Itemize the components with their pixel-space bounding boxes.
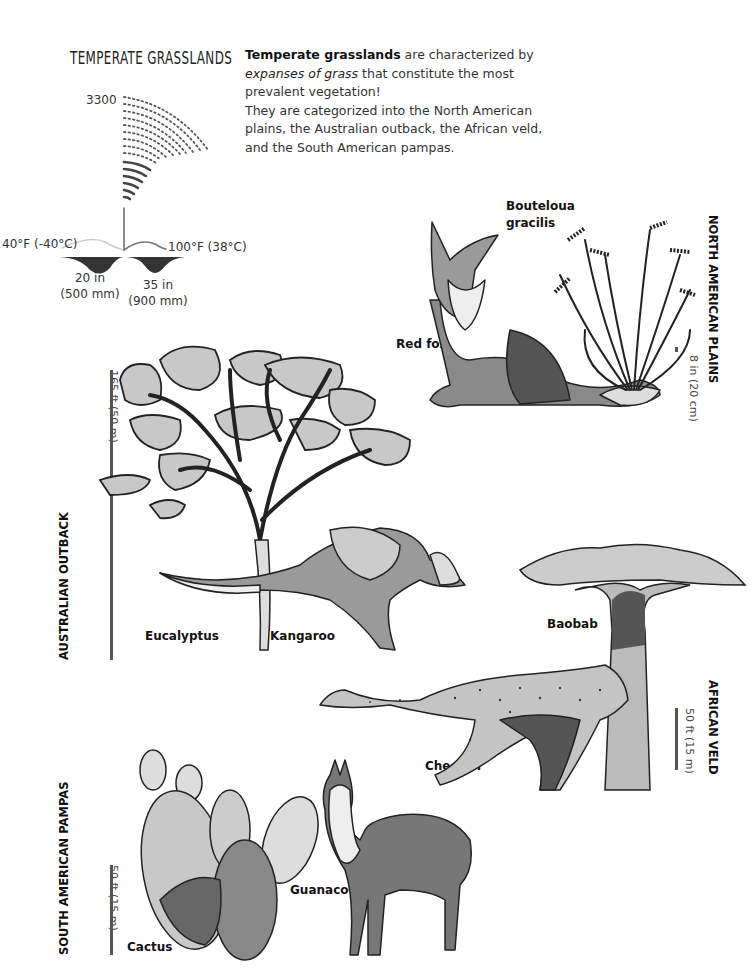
guanaco-icon [0, 0, 753, 974]
